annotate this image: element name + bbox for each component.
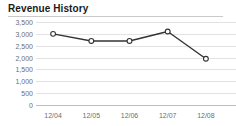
y-axis-tick-labels: 05001,0001,5002,0002,5003,0003,500: [15, 19, 33, 109]
data-point-marker[interactable]: [51, 31, 56, 36]
y-axis-tick-label: 2,500: [15, 43, 33, 50]
x-axis-tick-labels: 12/0412/0512/0612/0712/08: [44, 112, 214, 119]
y-axis-tick-label: 3,000: [15, 31, 33, 38]
revenue-series-markers: [51, 29, 209, 61]
y-axis-tick-label: 500: [21, 90, 33, 97]
data-point-marker[interactable]: [204, 56, 209, 61]
x-axis-tick-label: 12/04: [44, 112, 62, 119]
data-point-marker[interactable]: [165, 29, 170, 34]
y-axis-tick-label: 0: [29, 102, 33, 109]
x-axis-tick-label: 12/06: [121, 112, 139, 119]
y-axis-tick-label: 1,000: [15, 78, 33, 85]
revenue-history-panel: Revenue History 05001,0001,5002,0002,500…: [0, 0, 236, 126]
revenue-series-line: [53, 31, 206, 58]
page-title: Revenue History: [8, 3, 88, 14]
data-point-marker[interactable]: [89, 39, 94, 44]
line-chart-svg: 05001,0001,5002,0002,5003,0003,500 12/04…: [0, 17, 236, 126]
data-point-marker[interactable]: [127, 39, 132, 44]
x-axis-tick-label: 12/07: [159, 112, 177, 119]
y-axis-tick-label: 2,000: [15, 55, 33, 62]
x-axis-tick-label: 12/05: [83, 112, 101, 119]
chart-plot-area: 05001,0001,5002,0002,5003,0003,500 12/04…: [0, 17, 236, 126]
y-axis-tick-label: 3,500: [15, 19, 33, 26]
x-axis-tick-label: 12/08: [197, 112, 215, 119]
y-axis-tick-label: 1,500: [15, 66, 33, 73]
